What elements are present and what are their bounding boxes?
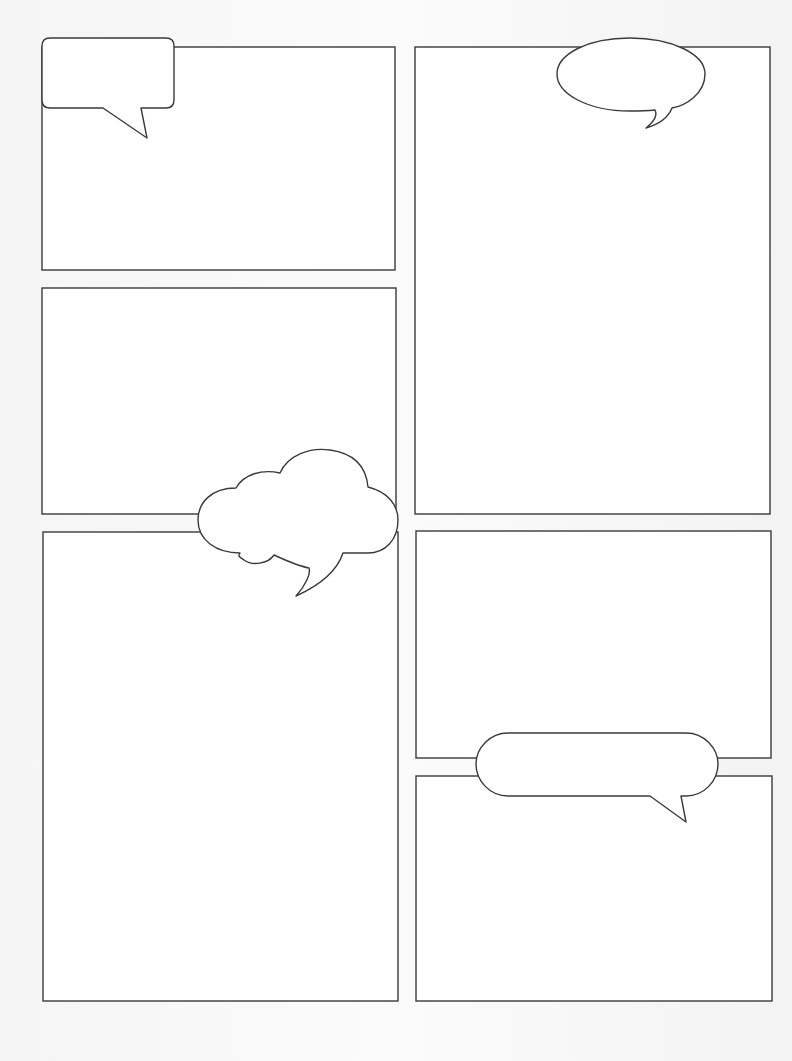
comic-layout: [0, 0, 792, 1061]
panel-bottom-left: [43, 532, 398, 1001]
panel-middle-right: [416, 531, 771, 758]
panel-bottom-right: [416, 776, 772, 1001]
comic-page: [0, 0, 792, 1061]
panel-top-right: [415, 47, 770, 514]
